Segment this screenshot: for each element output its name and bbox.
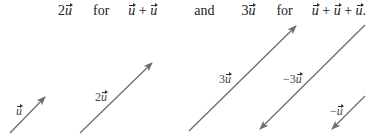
vector-arrow-2u [80, 63, 152, 133]
vector-diagram [0, 0, 378, 139]
vector-label-u: u [16, 104, 22, 119]
vector-arrow-neg3u [260, 25, 365, 129]
vector-label-neg3u: −3u [283, 72, 302, 87]
vector-label-negu: −u [330, 104, 343, 119]
vector-label-3u: 3u [219, 72, 231, 87]
vector-label-2u: 2u [95, 90, 107, 105]
vector-arrow-3u [189, 26, 296, 131]
